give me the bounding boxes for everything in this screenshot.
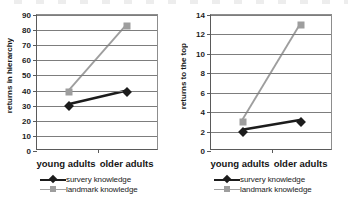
y-axis-tick bbox=[207, 54, 211, 55]
y-axis-tick-label: 20 bbox=[22, 116, 31, 125]
legend-key-landmark-right bbox=[214, 185, 240, 194]
gridline bbox=[211, 73, 331, 74]
y-axis-tick-label: 0 bbox=[201, 147, 205, 156]
series-line-diamond bbox=[68, 91, 126, 104]
y-axis-title-left: returns in hierarchy bbox=[0, 0, 18, 152]
diamond-marker-icon bbox=[223, 175, 231, 183]
x-axis-labels-left: young adultsolder adults bbox=[22, 158, 168, 169]
gridline bbox=[37, 75, 157, 76]
y-axis-tick bbox=[33, 30, 37, 31]
y-axis-tick bbox=[33, 151, 37, 152]
y-axis-tick bbox=[207, 73, 211, 74]
y-axis-tick-label: 10 bbox=[22, 131, 31, 140]
y-axis-tick bbox=[207, 132, 211, 133]
legend-label-landmark-left: landmark knowledge bbox=[66, 185, 138, 194]
y-axis-tick bbox=[33, 121, 37, 122]
y-axis-title-right-text: returns to the top bbox=[179, 43, 188, 109]
y-axis-tick-label: 70 bbox=[22, 41, 31, 50]
y-axis-tick-label: 6 bbox=[201, 88, 205, 97]
gridline bbox=[211, 15, 331, 16]
square-marker-icon bbox=[50, 186, 56, 192]
x-label-older-adults-left: older adults bbox=[100, 158, 154, 169]
x-label-young-adults-right: young adults bbox=[211, 158, 270, 169]
y-axis-tick-label: 0 bbox=[27, 147, 31, 156]
legend-item-survey-left: survery knowledge bbox=[40, 175, 170, 184]
y-axis-tick bbox=[207, 34, 211, 35]
legend-label-landmark-right: landmark knowledge bbox=[240, 185, 312, 194]
y-axis-tick-label: 90 bbox=[22, 11, 31, 20]
plot-area-left: 0102030405060708090 bbox=[36, 14, 158, 150]
y-axis-tick bbox=[33, 91, 37, 92]
x-label-older-adults-right: older adults bbox=[274, 158, 328, 169]
gridline bbox=[37, 121, 157, 122]
y-axis-tick-label: 50 bbox=[22, 71, 31, 80]
legend-item-survey-right: survery knowledge bbox=[214, 175, 344, 184]
gridline bbox=[37, 91, 157, 92]
y-axis-tick bbox=[207, 151, 211, 152]
series-lines-left bbox=[37, 15, 157, 149]
x-axis-tick bbox=[98, 149, 99, 153]
y-axis-tick-label: 40 bbox=[22, 86, 31, 95]
y-axis-title-right: returns to the top bbox=[174, 0, 192, 152]
legend-key-survey-left bbox=[40, 175, 66, 184]
legend-item-landmark-left: landmark knowledge bbox=[40, 185, 170, 194]
legend-label-survey-right: survery knowledge bbox=[240, 175, 305, 184]
y-axis-tick-label: 12 bbox=[196, 30, 205, 39]
diamond-marker-icon bbox=[49, 175, 57, 183]
series-line-diamond bbox=[242, 120, 300, 130]
y-axis-tick-label: 10 bbox=[196, 49, 205, 58]
gridline bbox=[37, 106, 157, 107]
y-axis-tick bbox=[33, 75, 37, 76]
plot-area-right: 02468101214 bbox=[210, 14, 332, 150]
gridline bbox=[37, 60, 157, 61]
legend-key-survey-right bbox=[214, 175, 240, 184]
gridline bbox=[37, 15, 157, 16]
legend-key-landmark-left bbox=[40, 185, 66, 194]
y-axis-tick bbox=[207, 15, 211, 16]
chart-panel-returns-in-hierarchy: returns in hierarchy 0102030405060708090… bbox=[0, 0, 174, 203]
y-axis-tick-label: 4 bbox=[201, 108, 205, 117]
gridline bbox=[211, 34, 331, 35]
y-axis-tick-label: 8 bbox=[201, 69, 205, 78]
data-point-square-young-adults bbox=[65, 89, 72, 96]
chart-panel-returns-to-the-top: returns to the top 02468101214 young adu… bbox=[174, 0, 348, 203]
y-axis-tick-label: 2 bbox=[201, 127, 205, 136]
y-axis-tick bbox=[207, 93, 211, 94]
gridline bbox=[211, 54, 331, 55]
x-label-young-adults-left: young adults bbox=[37, 158, 96, 169]
y-axis-tick bbox=[33, 45, 37, 46]
x-axis-tick bbox=[272, 149, 273, 153]
x-axis-labels-right: young adultsolder adults bbox=[196, 158, 342, 169]
y-axis-title-left-text: returns in hierarchy bbox=[5, 38, 14, 113]
y-axis-tick bbox=[33, 106, 37, 107]
data-point-square-older-adults bbox=[124, 22, 131, 29]
gridline bbox=[37, 136, 157, 137]
series-line-square bbox=[68, 25, 126, 90]
two-panel-line-chart-figure: returns in hierarchy 0102030405060708090… bbox=[0, 0, 348, 203]
gridline bbox=[211, 132, 331, 133]
legend-label-survey-left: survery knowledge bbox=[66, 175, 131, 184]
gridline bbox=[211, 93, 331, 94]
y-axis-tick bbox=[33, 15, 37, 16]
gridline bbox=[37, 30, 157, 31]
y-axis-tick bbox=[33, 136, 37, 137]
y-axis-tick-label: 60 bbox=[22, 56, 31, 65]
y-axis-tick-label: 14 bbox=[196, 11, 205, 20]
gridline bbox=[37, 45, 157, 46]
data-point-square-young-adults bbox=[239, 118, 246, 125]
gridline bbox=[211, 112, 331, 113]
cropped-text-artifact bbox=[0, 0, 348, 4]
legend-right: survery knowledge landmark knowledge bbox=[214, 175, 344, 195]
legend-left: survery knowledge landmark knowledge bbox=[40, 175, 170, 195]
legend-item-landmark-right: landmark knowledge bbox=[214, 185, 344, 194]
data-point-square-older-adults bbox=[298, 21, 305, 28]
y-axis-tick bbox=[207, 112, 211, 113]
y-axis-tick-label: 30 bbox=[22, 101, 31, 110]
square-marker-icon bbox=[224, 186, 230, 192]
y-axis-tick bbox=[33, 60, 37, 61]
y-axis-tick-label: 80 bbox=[22, 26, 31, 35]
